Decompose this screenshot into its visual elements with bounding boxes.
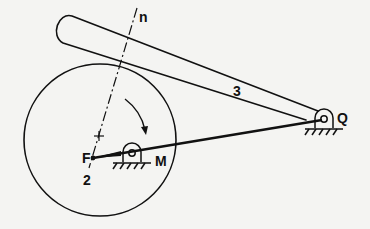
center-cross-icon xyxy=(94,131,104,141)
label-pivot-q: Q xyxy=(337,111,348,125)
label-normal-n: n xyxy=(139,10,148,24)
point-f-dot xyxy=(91,156,96,161)
rotation-arrow-icon xyxy=(125,99,148,135)
link-fq xyxy=(93,120,322,158)
label-cam-2: 2 xyxy=(83,173,91,187)
mechanism-diagram xyxy=(0,0,370,229)
cam-circle xyxy=(24,64,176,216)
label-follower-3: 3 xyxy=(233,84,241,98)
label-point-f: F xyxy=(82,151,91,165)
label-pivot-m: M xyxy=(155,154,167,168)
follower-bar xyxy=(56,16,318,120)
